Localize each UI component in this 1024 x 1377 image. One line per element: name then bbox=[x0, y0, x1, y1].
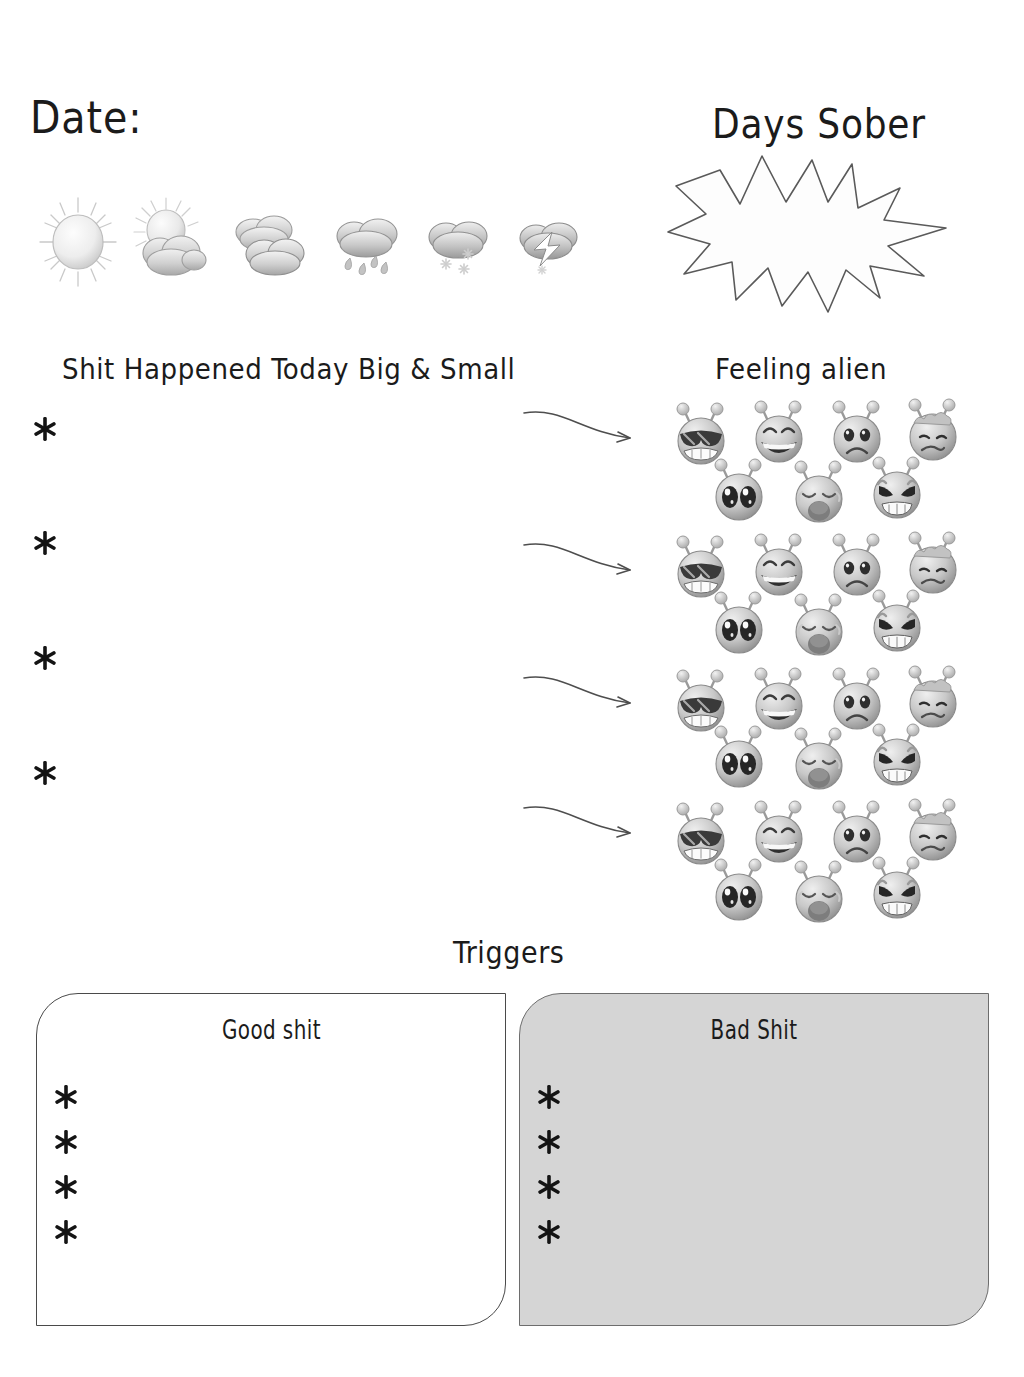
good-shit-bullet-asterisk-1[interactable] bbox=[53, 1084, 79, 1110]
clouds-icon[interactable] bbox=[220, 192, 316, 292]
feeling-alien-heading: Feeling alien bbox=[715, 355, 887, 384]
shit-write-line-2[interactable] bbox=[64, 520, 504, 600]
alien-angry-icon[interactable] bbox=[864, 588, 930, 654]
bad-shit-bullet-asterisk-3[interactable] bbox=[536, 1174, 562, 1200]
bad-shit-box[interactable]: Bad Shit bbox=[519, 993, 989, 1326]
alien-sick-icon[interactable] bbox=[900, 664, 966, 730]
date-label-text: Date: bbox=[30, 92, 142, 143]
good-shit-box[interactable]: Good shit bbox=[36, 993, 506, 1326]
alien-laughing-icon[interactable] bbox=[746, 399, 812, 465]
shit-bullet-asterisk-2[interactable] bbox=[32, 530, 58, 556]
alien-crying-icon[interactable] bbox=[786, 592, 852, 658]
worksheet-page: Date: bbox=[0, 0, 1024, 1377]
rain-cloud-icon[interactable] bbox=[320, 192, 416, 292]
days-sober-title: Days Sober bbox=[712, 104, 926, 144]
triggers-heading: Triggers bbox=[453, 938, 565, 968]
alien-sick-icon[interactable] bbox=[900, 530, 966, 596]
triggers-heading-text: Triggers bbox=[453, 935, 565, 970]
bad-shit-bullet-asterisk-1[interactable] bbox=[536, 1084, 562, 1110]
shit-bullet-asterisk-1[interactable] bbox=[32, 416, 58, 442]
alien-laughing-icon[interactable] bbox=[746, 799, 812, 865]
shit-write-line-3[interactable] bbox=[64, 635, 504, 715]
curved-arrow-right-icon-1 bbox=[522, 405, 682, 451]
snow-cloud-icon[interactable] bbox=[412, 192, 508, 292]
alien-starry-eyes-icon[interactable] bbox=[706, 724, 772, 790]
good-shit-title-text: Good shit bbox=[221, 1016, 320, 1043]
alien-laughing-icon[interactable] bbox=[746, 666, 812, 732]
shit-bullet-asterisk-3[interactable] bbox=[32, 645, 58, 671]
alien-sick-icon[interactable] bbox=[900, 797, 966, 863]
alien-crying-icon[interactable] bbox=[786, 859, 852, 925]
good-shit-bullet-asterisk-2[interactable] bbox=[53, 1129, 79, 1155]
shit-write-line-1[interactable] bbox=[64, 405, 504, 485]
alien-sick-icon[interactable] bbox=[900, 397, 966, 463]
alien-starry-eyes-icon[interactable] bbox=[706, 457, 772, 523]
alien-crying-icon[interactable] bbox=[786, 459, 852, 525]
feeling-alien-row-2 bbox=[668, 528, 968, 658]
feeling-alien-heading-text: Feeling alien bbox=[715, 352, 887, 386]
weather-selector bbox=[30, 192, 570, 292]
shit-happened-heading: Shit Happened Today Big & Small bbox=[62, 355, 515, 384]
alien-angry-icon[interactable] bbox=[864, 722, 930, 788]
days-sober-burst[interactable] bbox=[662, 146, 952, 318]
alien-starry-eyes-icon[interactable] bbox=[706, 857, 772, 923]
sun-behind-cloud-icon[interactable] bbox=[126, 192, 222, 292]
curved-arrow-right-icon-4 bbox=[522, 800, 682, 846]
bad-shit-title-text: Bad Shit bbox=[710, 1016, 797, 1043]
days-sober-title-text: Days Sober bbox=[712, 101, 926, 147]
good-shit-bullet-asterisk-3[interactable] bbox=[53, 1174, 79, 1200]
alien-angry-icon[interactable] bbox=[864, 455, 930, 521]
lightning-cloud-icon[interactable] bbox=[502, 192, 598, 292]
feeling-alien-row-4 bbox=[668, 795, 968, 925]
curved-arrow-right-icon-3 bbox=[522, 670, 682, 716]
curved-arrow-right-icon-2 bbox=[522, 537, 682, 583]
good-shit-bullet-asterisk-4[interactable] bbox=[53, 1219, 79, 1245]
shit-bullet-asterisk-4[interactable] bbox=[32, 760, 58, 786]
feeling-alien-row-3 bbox=[668, 662, 968, 792]
alien-starry-eyes-icon[interactable] bbox=[706, 590, 772, 656]
date-label: Date: bbox=[30, 96, 142, 140]
alien-laughing-icon[interactable] bbox=[746, 532, 812, 598]
alien-angry-icon[interactable] bbox=[864, 855, 930, 921]
alien-crying-icon[interactable] bbox=[786, 726, 852, 792]
sun-icon[interactable] bbox=[30, 192, 126, 292]
bad-shit-bullet-asterisk-4[interactable] bbox=[536, 1219, 562, 1245]
good-shit-title: Good shit bbox=[37, 1016, 505, 1044]
shit-happened-heading-text: Shit Happened Today Big & Small bbox=[62, 352, 515, 386]
feeling-alien-row-1 bbox=[668, 395, 968, 525]
bad-shit-bullet-asterisk-2[interactable] bbox=[536, 1129, 562, 1155]
shit-write-line-4[interactable] bbox=[64, 750, 504, 830]
bad-shit-title: Bad Shit bbox=[520, 1016, 988, 1044]
